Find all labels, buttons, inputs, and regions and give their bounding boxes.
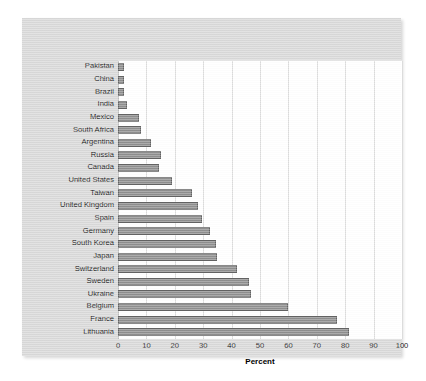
bar xyxy=(118,88,124,96)
y-axis-label-france: France xyxy=(22,315,114,323)
bar-row xyxy=(118,187,402,200)
x-tick-label-0: 0 xyxy=(116,341,120,350)
bar-row xyxy=(118,301,402,314)
bar xyxy=(118,63,124,71)
bar-series xyxy=(118,61,402,339)
bar xyxy=(118,164,159,172)
bar-row xyxy=(118,99,402,112)
bar-row xyxy=(118,213,402,226)
bar-row xyxy=(118,200,402,213)
chart-screenshot: PakistanChinaBrazilIndiaMexicoSouth Afri… xyxy=(0,0,426,381)
y-axis-label-ukraine: Ukraine xyxy=(22,290,114,298)
x-tick-label-30: 30 xyxy=(199,341,207,350)
bar xyxy=(118,189,192,197)
x-tick-label-20: 20 xyxy=(171,341,179,350)
y-axis-label-mexico: Mexico xyxy=(22,113,114,121)
bar xyxy=(118,265,237,273)
y-axis-label-india: India xyxy=(22,100,114,108)
bar xyxy=(118,227,210,235)
bar xyxy=(118,215,202,223)
bar xyxy=(118,151,161,159)
bar-row xyxy=(118,314,402,327)
bar-row xyxy=(118,74,402,87)
y-axis-label-south-africa: South Africa xyxy=(22,126,114,134)
y-axis-label-japan: Japan xyxy=(22,252,114,260)
y-axis-label-pakistan: Pakistan xyxy=(22,62,114,70)
bar-row xyxy=(118,276,402,289)
y-axis-label-brazil: Brazil xyxy=(22,88,114,96)
y-axis-label-china: China xyxy=(22,75,114,83)
bar xyxy=(118,177,172,185)
x-tick-label-50: 50 xyxy=(256,341,264,350)
bar xyxy=(118,328,349,336)
bar xyxy=(118,240,216,248)
y-axis-label-russia: Russia xyxy=(22,151,114,159)
x-tick-label-60: 60 xyxy=(284,341,292,350)
y-axis-label-sweden: Sweden xyxy=(22,277,114,285)
bar-row xyxy=(118,162,402,175)
x-tick-label-10: 10 xyxy=(142,341,150,350)
y-axis-label-belgium: Belgium xyxy=(22,302,114,310)
bar-row xyxy=(118,112,402,125)
x-tick-label-90: 90 xyxy=(369,341,377,350)
bar-row xyxy=(118,251,402,264)
bar-row xyxy=(118,238,402,251)
bar-row xyxy=(118,326,402,339)
bar-row xyxy=(118,137,402,150)
plot-area xyxy=(118,60,402,339)
bar xyxy=(118,278,249,286)
x-axis-title: Percent xyxy=(118,357,402,366)
x-axis-tick-labels: 0102030405060708090100 xyxy=(118,341,402,353)
bar xyxy=(118,126,141,134)
bar-row xyxy=(118,288,402,301)
y-axis-label-canada: Canada xyxy=(22,163,114,171)
y-axis-label-switzerland: Switzerland xyxy=(22,265,114,273)
y-axis-label-spain: Spain xyxy=(22,214,114,222)
x-tick-label-100: 100 xyxy=(396,341,409,350)
y-axis-label-lithuania: Lithuania xyxy=(22,328,114,336)
y-axis-label-germany: Germany xyxy=(22,227,114,235)
y-axis-label-south-korea: South Korea xyxy=(22,239,114,247)
bar-row xyxy=(118,124,402,137)
x-tick-label-70: 70 xyxy=(313,341,321,350)
bar-row xyxy=(118,175,402,188)
bar-row xyxy=(118,149,402,162)
bar xyxy=(118,114,139,122)
bar xyxy=(118,76,124,84)
bar xyxy=(118,253,217,261)
bar xyxy=(118,101,127,109)
bar-row xyxy=(118,225,402,238)
bar xyxy=(118,303,288,311)
bar xyxy=(118,139,151,147)
x-tick-label-80: 80 xyxy=(341,341,349,350)
y-axis-label-united-kingdom: United Kingdom xyxy=(22,201,114,209)
y-axis-label-argentina: Argentina xyxy=(22,138,114,146)
bar xyxy=(118,316,337,324)
gridline-100 xyxy=(402,61,403,339)
y-axis-label-taiwan: Taiwan xyxy=(22,189,114,197)
bar-row xyxy=(118,86,402,99)
x-tick-label-40: 40 xyxy=(227,341,235,350)
figure-panel: PakistanChinaBrazilIndiaMexicoSouth Afri… xyxy=(22,18,401,356)
y-axis-category-labels: PakistanChinaBrazilIndiaMexicoSouth Afri… xyxy=(22,60,114,338)
y-axis-label-united-states: United States xyxy=(22,176,114,184)
bar-row xyxy=(118,61,402,74)
bar xyxy=(118,290,251,298)
bar xyxy=(118,202,198,210)
bar-row xyxy=(118,263,402,276)
